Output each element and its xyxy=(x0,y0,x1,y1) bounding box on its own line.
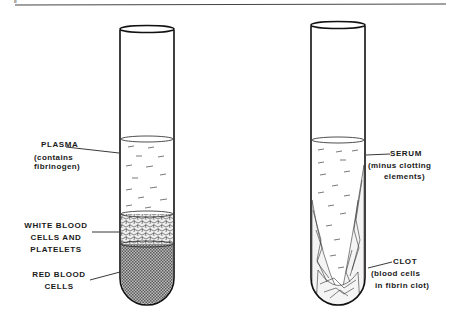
wbc-label-line1: WHITE BLOOD xyxy=(20,221,92,231)
right-test-tube xyxy=(311,22,365,307)
serum-note-line2: elements) xyxy=(384,172,425,182)
wbc-label-line3: PLATELETS xyxy=(20,245,92,255)
header-rule xyxy=(15,4,446,5)
red-blood-cells-layer xyxy=(121,244,173,304)
wbc-label-line2: CELLS AND xyxy=(20,233,92,243)
clot-label: CLOT xyxy=(393,257,417,267)
plasma-note-line2: fibrinogen) xyxy=(34,162,80,172)
white-blood-cells-layer xyxy=(121,214,173,244)
left-tube-rim xyxy=(120,26,174,33)
right-tube-rim xyxy=(311,22,365,29)
clot-note-line1: (blood cells xyxy=(371,269,420,279)
left-test-tube xyxy=(120,26,174,306)
clot-mass xyxy=(312,165,364,306)
serum-note-line1: (minus clotting xyxy=(368,161,431,171)
plasma-surface xyxy=(121,136,173,142)
serum-surface xyxy=(312,137,364,143)
serum-label: SERUM xyxy=(390,149,422,159)
rbc-label-line2: CELLS xyxy=(28,282,90,292)
plasma-dashes xyxy=(126,146,167,208)
clot-note-line2: in fibrin clot) xyxy=(375,281,429,291)
rbc-label-line1: RED BLOOD xyxy=(28,270,90,280)
plasma-label: PLASMA xyxy=(41,140,78,150)
